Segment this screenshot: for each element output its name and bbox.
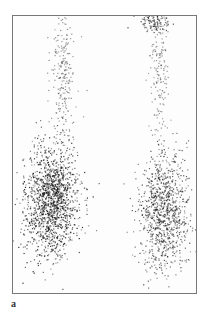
uptake-scatter: [13, 16, 196, 293]
scintigraphy-image: [12, 15, 197, 294]
panel-label: a: [11, 298, 16, 309]
